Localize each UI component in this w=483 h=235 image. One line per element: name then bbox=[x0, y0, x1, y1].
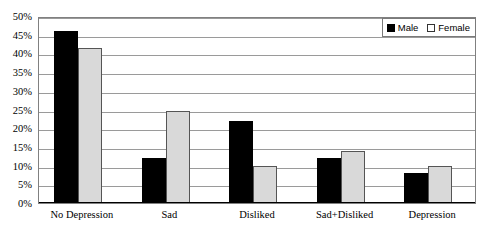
y-tick-label: 40% bbox=[13, 49, 32, 60]
bar-female bbox=[341, 151, 365, 203]
y-tick-label: 15% bbox=[13, 143, 32, 154]
bar-male bbox=[229, 121, 253, 203]
y-tick-label: 5% bbox=[18, 180, 32, 191]
plot-area bbox=[38, 17, 476, 204]
bar-female bbox=[166, 111, 190, 203]
y-tick-label: 25% bbox=[13, 105, 32, 116]
y-axis: 50%45%40%35%30%25%20%15%10%5%0% bbox=[0, 0, 36, 235]
bar-group bbox=[214, 18, 302, 203]
x-axis: No DepressionSadDislikedSad+DislikedDepr… bbox=[38, 210, 476, 232]
bar-group bbox=[389, 18, 477, 203]
y-tick-label: 45% bbox=[13, 30, 32, 41]
bar-female bbox=[428, 166, 452, 203]
bar-chart: 50%45%40%35%30%25%20%15%10%5%0% Male Fem… bbox=[0, 0, 483, 235]
bar-male bbox=[317, 158, 341, 203]
legend-label-female: Female bbox=[438, 23, 470, 33]
legend-label-male: Male bbox=[398, 23, 419, 33]
x-category-label: No Depression bbox=[50, 210, 113, 221]
x-category-label: Depression bbox=[409, 210, 456, 221]
x-category-label: Sad+Disliked bbox=[316, 210, 373, 221]
y-tick-label: 35% bbox=[13, 68, 32, 79]
y-tick-label: 10% bbox=[13, 161, 32, 172]
bar-male bbox=[54, 31, 78, 203]
bar-male bbox=[404, 173, 428, 203]
y-tick-label: 30% bbox=[13, 87, 32, 98]
bar-group bbox=[302, 18, 390, 203]
x-axis-baseline bbox=[39, 202, 475, 203]
bar-female bbox=[253, 166, 277, 203]
legend-entry-male: Male bbox=[387, 23, 419, 33]
bar-male bbox=[142, 158, 166, 203]
bar-group bbox=[127, 18, 215, 203]
bar-group bbox=[39, 18, 127, 203]
x-category-label: Disliked bbox=[239, 210, 275, 221]
y-tick-label: 0% bbox=[18, 199, 32, 210]
legend-swatch-male-icon bbox=[387, 24, 395, 32]
y-tick-label: 20% bbox=[13, 124, 32, 135]
chart-legend: Male Female bbox=[382, 18, 476, 37]
y-tick-label: 50% bbox=[13, 12, 32, 23]
legend-entry-female: Female bbox=[427, 23, 470, 33]
bar-female bbox=[78, 48, 102, 203]
x-category-label: Sad bbox=[162, 210, 178, 221]
bars-layer bbox=[39, 18, 475, 203]
legend-swatch-female-icon bbox=[427, 24, 435, 32]
